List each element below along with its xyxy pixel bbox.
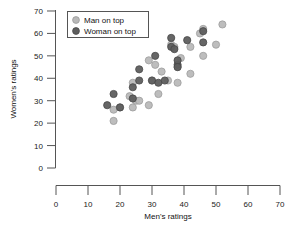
y-axis-tick-label: 30 <box>34 97 43 106</box>
data-point-woman-on-top <box>174 57 181 64</box>
scatter-plot-figure: 010203040506070 Women's ratings 01020304… <box>0 0 306 229</box>
data-point-man-on-top <box>145 102 152 109</box>
data-point-woman-on-top <box>136 77 143 84</box>
y-axis-tick-label: 20 <box>34 119 43 128</box>
data-point-woman-on-top <box>171 46 178 53</box>
data-point-woman-on-top <box>129 95 136 102</box>
x-axis-tick-label: 50 <box>212 200 221 209</box>
legend-label-man-on-top: Man on top <box>84 16 125 25</box>
x-axis-tick-label: 20 <box>116 200 125 209</box>
data-point-man-on-top <box>200 52 207 59</box>
x-axis-title: Men's ratings <box>144 212 191 221</box>
data-point-woman-on-top <box>174 63 181 70</box>
data-point-man-on-top <box>158 68 165 75</box>
data-point-woman-on-top <box>110 90 117 97</box>
y-axis-tick-label: 10 <box>34 142 43 151</box>
y-axis-tick-label: 50 <box>34 52 43 61</box>
data-point-man-on-top <box>187 70 194 77</box>
legend: Man on top Woman on top <box>68 12 149 38</box>
data-point-woman-on-top <box>168 34 175 41</box>
data-point-woman-on-top <box>104 102 111 109</box>
x-axis-tick-label: 70 <box>276 200 285 209</box>
y-axis-tick-label: 60 <box>34 29 43 38</box>
x-axis-tick-label: 30 <box>148 200 157 209</box>
data-point-man-on-top <box>187 43 194 50</box>
data-point-man-on-top <box>145 57 152 64</box>
figure-background <box>0 0 306 229</box>
data-point-woman-on-top <box>116 104 123 111</box>
y-axis-tick-label: 0 <box>39 164 44 173</box>
plot-canvas: 010203040506070 Women's ratings 01020304… <box>0 0 306 229</box>
x-axis-tick-label: 40 <box>180 200 189 209</box>
data-point-man-on-top <box>129 104 136 111</box>
y-axis-title: Women's ratings <box>9 59 18 118</box>
data-point-man-on-top <box>174 79 181 86</box>
data-point-woman-on-top <box>129 84 136 91</box>
data-point-woman-on-top <box>184 37 191 44</box>
y-axis-tick-label: 40 <box>34 74 43 83</box>
legend-label-woman-on-top: Woman on top <box>84 27 136 36</box>
legend-marker-light-circle-icon <box>73 17 80 24</box>
data-point-woman-on-top <box>152 52 159 59</box>
data-point-woman-on-top <box>200 28 207 35</box>
data-point-man-on-top <box>212 41 219 48</box>
data-point-man-on-top <box>219 21 226 28</box>
legend-marker-dark-circle-icon <box>73 28 80 35</box>
data-point-woman-on-top <box>200 39 207 46</box>
y-axis-tick-label: 70 <box>34 7 43 16</box>
data-point-woman-on-top <box>136 66 143 73</box>
x-axis-tick-label: 0 <box>54 200 59 209</box>
data-point-man-on-top <box>155 90 162 97</box>
data-point-man-on-top <box>110 117 117 124</box>
x-axis-tick-label: 10 <box>84 200 93 209</box>
x-axis-tick-label: 60 <box>244 200 253 209</box>
data-point-woman-on-top <box>161 77 168 84</box>
data-point-man-on-top <box>152 61 159 68</box>
